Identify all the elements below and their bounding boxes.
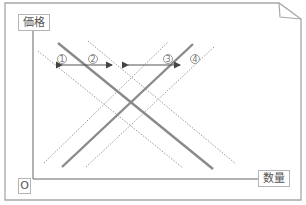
- marker-2: 2: [88, 54, 98, 64]
- origin-label: O: [18, 178, 31, 194]
- y-axis-label: 価格: [18, 14, 50, 31]
- marker-4: 4: [190, 54, 200, 64]
- page-frame: [5, 3, 301, 200]
- marker-3: 3: [163, 54, 173, 64]
- x-axis-label: 数量: [258, 170, 290, 187]
- marker-1: 1: [57, 54, 67, 64]
